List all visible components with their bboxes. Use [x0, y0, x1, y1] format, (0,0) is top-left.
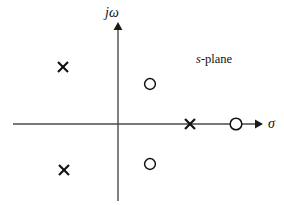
zero-marker-lower	[145, 159, 156, 170]
zero-marker-real-axis	[230, 118, 242, 130]
s-plane-annotation-rest: -plane	[201, 52, 232, 66]
s-plane-canvas	[0, 0, 284, 205]
imaginary-axis-label: jω	[105, 6, 119, 20]
imaginary-axis-arrowhead	[114, 22, 123, 30]
zero-marker-upper	[145, 79, 156, 90]
real-axis-arrowhead	[255, 120, 263, 129]
pole-marker-lower-left	[59, 165, 69, 175]
real-axis-label: σ	[268, 117, 275, 131]
s-plane-annotation: s-plane	[196, 53, 232, 66]
pole-marker-upper-left	[58, 62, 68, 72]
s-plane-figure: jω σ s-plane	[0, 0, 284, 205]
